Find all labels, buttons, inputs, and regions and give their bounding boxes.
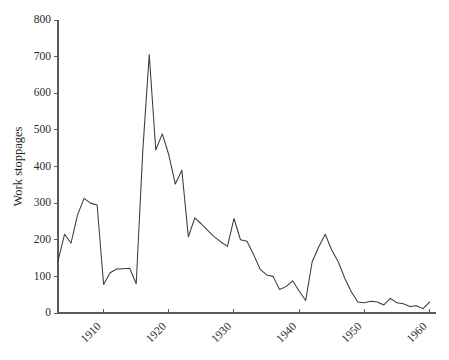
y-axis-title: Work stoppages: [11, 126, 25, 206]
x-tick-label: 1920: [143, 320, 168, 345]
chart-figure: 0100200300400500600700800 19101920193019…: [0, 0, 449, 360]
x-tick-label: 1910: [78, 320, 103, 345]
y-tick-label: 800: [34, 13, 52, 25]
x-tick-label: 1950: [339, 320, 364, 345]
y-axis-group: 0100200300400500600700800: [34, 13, 58, 318]
y-tick-label: 400: [34, 160, 52, 172]
x-tick-label: 1930: [209, 320, 234, 345]
y-tick-label: 500: [34, 123, 52, 135]
y-tick-label: 300: [34, 196, 52, 208]
y-tick-label: 600: [34, 86, 52, 98]
y-axis-ticks: 0100200300400500600700800: [34, 13, 58, 318]
x-axis-ticks: 191019201930194019501960: [78, 309, 429, 345]
work-stoppages-line-chart: 0100200300400500600700800 19101920193019…: [0, 0, 449, 360]
y-tick-label: 200: [34, 233, 52, 245]
series-line-work-stoppages: [58, 54, 429, 308]
y-tick-label: 100: [34, 270, 52, 282]
series-group: [58, 54, 429, 308]
y-tick-label: 700: [34, 50, 52, 62]
x-axis-group: 191019201930194019501960: [58, 309, 436, 345]
x-tick-label: 1960: [404, 320, 429, 345]
y-tick-label: 0: [45, 306, 51, 318]
x-tick-label: 1940: [274, 320, 299, 345]
